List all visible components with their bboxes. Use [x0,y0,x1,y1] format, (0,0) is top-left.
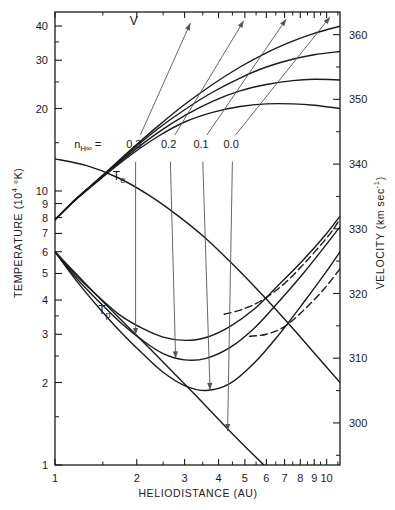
y-tick-label: 20 [36,103,48,115]
leader-down-01-head [207,383,212,390]
y-tick-label: 4 [42,294,48,306]
curve-tp-01 [55,252,340,391]
figure-container: 1234567891012345678910203040300310320330… [0,0,395,510]
y-tick-label: 40 [36,20,48,32]
leader-up-02 [175,21,244,135]
curve-tp-00 [55,252,285,485]
x-tick-label: 4 [215,472,221,484]
x-tick-label: 1 [52,472,58,484]
curve-v-01 [55,51,340,219]
leader-up-02-head [238,21,244,28]
curve-tp-02 [55,227,340,360]
x-tick-label: 7 [281,472,287,484]
y2-tick-label: 360 [349,29,367,41]
y-tick-label: 1 [42,459,48,471]
x-tick-label: 9 [311,472,317,484]
leader-down-02 [170,162,175,359]
y-tick-label: 6 [42,246,48,258]
x-axis-title: HELIODISTANCE (AU) [55,487,341,499]
chart-svg: 1234567891012345678910203040300310320330… [0,0,395,510]
x-tick-label: 2 [134,472,140,484]
y2-tick-label: 310 [349,352,367,364]
leader-up-01 [207,19,286,135]
y-axis-title: TEMPERATURE (104 °K) [10,153,24,313]
parameter-label-03: 0.3 [126,138,141,150]
curve-v-00 [55,26,340,219]
y-tick-label: 8 [42,212,48,224]
x-tick-label: 5 [242,472,248,484]
x-tick-label: 10 [321,472,333,484]
curves-group [55,17,340,484]
curve-label-v: V [130,14,138,28]
curve-tp-03 [55,216,340,340]
parameter-label-02: 0.2 [161,138,176,150]
leader-up-03 [140,23,190,135]
leader-up-03-head [185,23,190,30]
y2-tick-label: 330 [349,223,367,235]
y2-tick-label: 340 [349,158,367,170]
x-tick-label: 3 [182,472,188,484]
leader-up-01-head [280,19,286,26]
y-tick-label: 9 [42,198,48,210]
x-tick-label: 6 [263,472,269,484]
y-tick-label: 7 [42,227,48,239]
leader-up-00 [236,17,331,135]
curve-dashed-lower [249,269,340,336]
y-tick-label: 10 [36,185,48,197]
y-tick-label: 2 [42,377,48,389]
curve-dashed-upper [224,219,340,314]
y-tick-label: 3 [42,328,48,340]
y2-tick-label: 320 [349,288,367,300]
parameter-label-01: 0.1 [193,138,208,150]
y2-tick-label: 300 [349,417,367,429]
y-tick-label: 30 [36,54,48,66]
y2-tick-label: 350 [349,93,367,105]
curve-te [55,159,340,383]
parameter-label-00: 0.0 [223,138,238,150]
curve-label-te: Te [113,169,125,186]
y-tick-label: 5 [42,267,48,279]
leader-down-00 [228,162,233,432]
x-tick-label: 8 [297,472,303,484]
parameter-name-label: nH∞ = [74,138,101,153]
leader-down-01 [203,162,210,390]
curve-v-03 [55,104,340,220]
y2-axis-title: VELOCITY (km sec-1) [372,153,386,313]
